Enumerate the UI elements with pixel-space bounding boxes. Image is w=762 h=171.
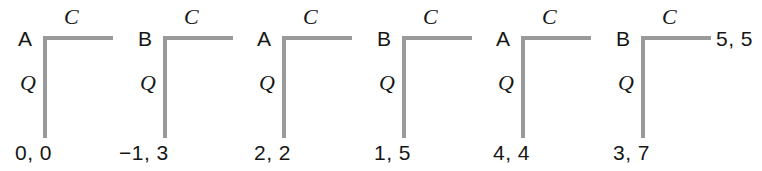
branch-edge-down xyxy=(402,36,406,138)
payoff-down: 3, 7 xyxy=(613,142,650,163)
node-player-label: A xyxy=(18,28,32,49)
branch-label-q: Q xyxy=(618,72,634,94)
branch-label-c: C xyxy=(662,6,677,28)
branch-edge-right xyxy=(402,36,472,40)
payoff-down: −1, 3 xyxy=(119,142,169,163)
branch-label-c: C xyxy=(303,6,318,28)
branch-label-q: Q xyxy=(20,72,36,94)
branch-edge-down xyxy=(163,36,167,138)
branch-edge-down xyxy=(521,36,525,138)
branch-label-c: C xyxy=(542,6,557,28)
branch-label-q: Q xyxy=(140,72,156,94)
payoff-down: 4, 4 xyxy=(493,142,530,163)
branch-edge-right xyxy=(163,36,233,40)
payoff-down: 2, 2 xyxy=(254,142,291,163)
node-player-label: A xyxy=(496,28,510,49)
node-player-label: B xyxy=(377,28,391,49)
branch-edge-right xyxy=(641,36,711,40)
node-player-label: A xyxy=(257,28,271,49)
payoff-down: 0, 0 xyxy=(15,142,52,163)
branch-edge-down xyxy=(43,36,47,138)
branch-edge-right xyxy=(521,36,591,40)
payoff-down: 1, 5 xyxy=(374,142,411,163)
node-player-label: B xyxy=(616,28,630,49)
game-tree-figure: A C Q 0, 0 B C Q −1, 3 A C Q 2, 2 B C Q … xyxy=(0,0,762,171)
branch-label-c: C xyxy=(64,6,79,28)
node-player-label: B xyxy=(138,28,152,49)
branch-label-q: Q xyxy=(259,72,275,94)
payoff-right: 5, 5 xyxy=(716,28,753,49)
branch-label-q: Q xyxy=(498,72,514,94)
branch-edge-down xyxy=(282,36,286,138)
branch-label-q: Q xyxy=(379,72,395,94)
branch-edge-right xyxy=(43,36,113,40)
branch-edge-right xyxy=(282,36,352,40)
branch-label-c: C xyxy=(184,6,199,28)
branch-label-c: C xyxy=(423,6,438,28)
branch-edge-down xyxy=(641,36,645,138)
